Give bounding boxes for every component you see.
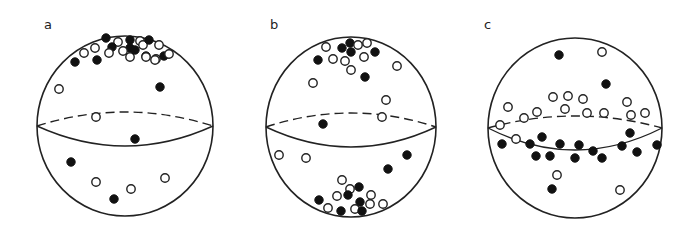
- filled-point: [633, 148, 641, 156]
- open-point: [583, 109, 591, 117]
- open-point: [329, 55, 337, 63]
- open-point: [309, 79, 317, 87]
- open-point: [302, 154, 310, 162]
- panel-c: c: [484, 17, 662, 218]
- open-point: [616, 186, 624, 194]
- panel-label: c: [484, 17, 491, 32]
- figure-canvas: a b c: [0, 0, 698, 238]
- open-point: [378, 113, 386, 121]
- open-point: [600, 109, 608, 117]
- open-point: [155, 41, 163, 49]
- open-point: [496, 121, 504, 129]
- open-point: [561, 105, 569, 113]
- filled-point: [384, 165, 392, 173]
- filled-point: [338, 44, 346, 52]
- filled-point: [532, 152, 540, 160]
- filled-point: [314, 56, 322, 64]
- open-point: [341, 57, 349, 65]
- filled-point: [371, 48, 379, 56]
- open-point: [504, 103, 512, 111]
- panel-b: b: [266, 17, 436, 217]
- open-point: [347, 66, 355, 74]
- open-point: [553, 171, 561, 179]
- filled-point: [546, 152, 554, 160]
- filled-point: [337, 207, 345, 215]
- panel-label: b: [270, 17, 278, 32]
- sphere-outline: [37, 36, 213, 216]
- filled-point: [355, 183, 363, 191]
- open-point: [338, 176, 346, 184]
- filled-point: [156, 83, 164, 91]
- filled-point: [315, 196, 323, 204]
- filled-point: [548, 185, 556, 193]
- open-point: [165, 50, 173, 58]
- filled-point: [653, 141, 661, 149]
- filled-point: [598, 154, 606, 162]
- filled-point: [358, 207, 366, 215]
- filled-point: [319, 120, 327, 128]
- filled-point: [67, 158, 75, 166]
- filled-point: [571, 154, 579, 162]
- open-point: [598, 48, 606, 56]
- open-point: [354, 41, 362, 49]
- filled-point: [555, 51, 563, 59]
- open-point: [360, 53, 368, 61]
- equator-front: [266, 127, 436, 147]
- open-point: [92, 178, 100, 186]
- open-point: [161, 174, 169, 182]
- open-point: [366, 200, 374, 208]
- open-point: [520, 114, 528, 122]
- filled-point: [526, 140, 534, 148]
- open-point: [324, 204, 332, 212]
- filled-point: [131, 46, 139, 54]
- open-point: [119, 47, 127, 55]
- filled-point: [403, 151, 411, 159]
- filled-point: [498, 140, 506, 148]
- open-point: [533, 108, 541, 116]
- filled-point: [102, 34, 110, 42]
- open-point: [55, 85, 63, 93]
- open-point: [322, 43, 330, 51]
- open-point: [512, 135, 520, 143]
- open-point: [367, 191, 375, 199]
- filled-point: [575, 141, 583, 149]
- open-point: [641, 109, 649, 117]
- filled-point: [556, 140, 564, 148]
- filled-point: [126, 36, 134, 44]
- open-point: [92, 113, 100, 121]
- open-point: [393, 62, 401, 70]
- equator-front: [37, 126, 213, 146]
- open-point: [382, 96, 390, 104]
- equator-back-dashed: [266, 113, 436, 127]
- open-point: [363, 39, 371, 47]
- open-point: [627, 111, 635, 119]
- filled-point: [589, 147, 597, 155]
- filled-point: [131, 135, 139, 143]
- open-point: [549, 93, 557, 101]
- filled-point: [346, 39, 354, 47]
- open-point: [623, 98, 631, 106]
- filled-point: [110, 195, 118, 203]
- filled-point: [93, 56, 101, 64]
- open-point: [379, 200, 387, 208]
- open-point: [80, 49, 88, 57]
- filled-point: [602, 80, 610, 88]
- open-point: [275, 151, 283, 159]
- open-point: [105, 49, 113, 57]
- panel-label: a: [44, 17, 52, 32]
- filled-point: [71, 58, 79, 66]
- filled-point: [618, 142, 626, 150]
- filled-point: [145, 36, 153, 44]
- open-point: [151, 56, 159, 64]
- open-point: [564, 92, 572, 100]
- sphere-outline: [488, 38, 662, 218]
- open-point: [579, 95, 587, 103]
- open-point: [91, 44, 99, 52]
- filled-point: [347, 48, 355, 56]
- filled-point: [344, 191, 352, 199]
- filled-point: [626, 129, 634, 137]
- equator-back-dashed: [37, 112, 213, 126]
- filled-point: [361, 73, 369, 81]
- open-point: [127, 185, 135, 193]
- open-point: [142, 53, 150, 61]
